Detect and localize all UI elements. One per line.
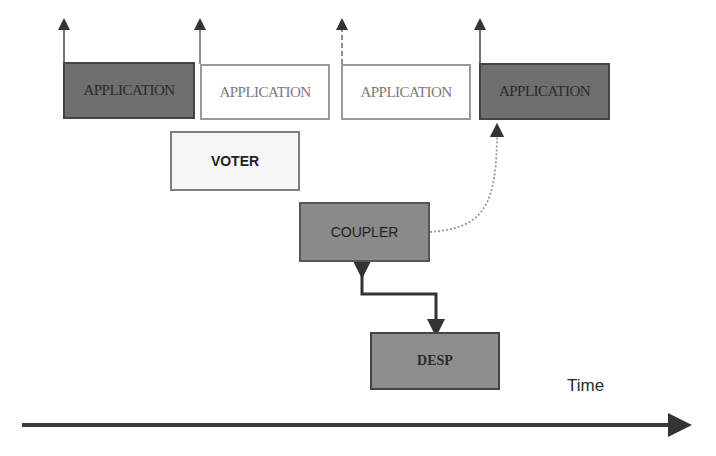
application-label: APPLICATION (499, 83, 590, 100)
time-axis-label: Time (567, 376, 604, 396)
voter-box: VOTER (170, 131, 300, 191)
coupler-box: COUPLER (299, 202, 430, 262)
application-box-3: APPLICATION (341, 64, 471, 120)
voter-label: VOTER (211, 153, 259, 169)
coupler-label: COUPLER (331, 224, 399, 240)
desp-box: DESP (370, 332, 500, 390)
application-box-1: APPLICATION (63, 62, 195, 119)
coupler-to-app-dotted-arrow (430, 130, 497, 232)
desp-label: DESP (417, 353, 453, 369)
application-label: APPLICATION (83, 82, 174, 99)
coupler-desp-link (362, 270, 436, 328)
application-label: APPLICATION (219, 84, 310, 101)
application-box-2: APPLICATION (200, 64, 330, 120)
application-box-4: APPLICATION (479, 63, 610, 120)
application-label: APPLICATION (360, 84, 451, 101)
